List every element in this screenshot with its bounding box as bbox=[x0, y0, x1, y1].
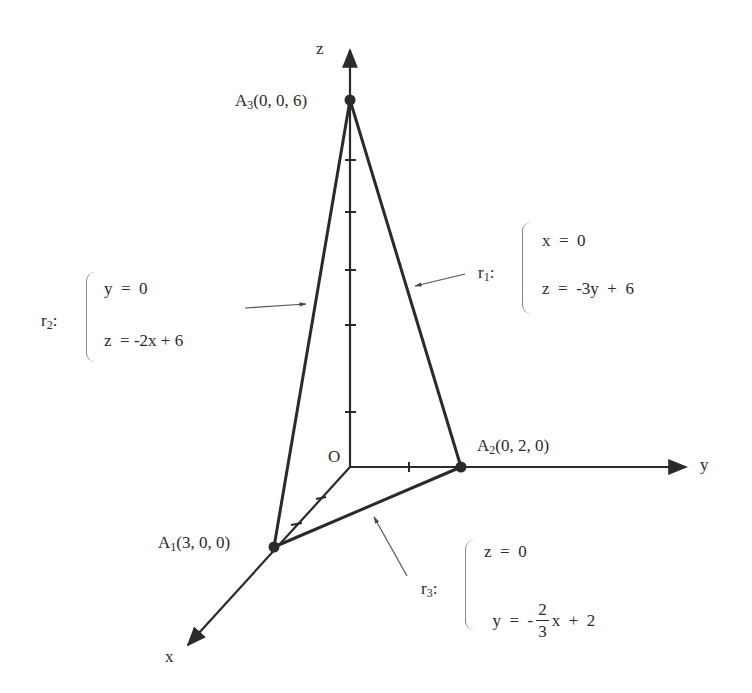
point-a2-coords: (0, 2, 0) bbox=[495, 436, 549, 455]
r2-colon: : bbox=[53, 311, 58, 330]
point-a2 bbox=[456, 462, 467, 473]
point-a3 bbox=[345, 95, 356, 106]
point-a1-coords: (3, 0, 0) bbox=[176, 533, 230, 552]
r1-eq1: x = 0 bbox=[542, 232, 586, 249]
r3-fraction-denominator: 3 bbox=[538, 621, 547, 640]
r3-eq2: y = -23x + 2 bbox=[484, 584, 595, 640]
r2-eq2: z = -2x + 6 bbox=[104, 332, 183, 349]
x-axis bbox=[188, 467, 350, 645]
r3-label: r3: bbox=[421, 580, 437, 599]
z-axis-label: z bbox=[316, 40, 324, 57]
r3-eq1: z = 0 bbox=[484, 543, 527, 560]
r1-label: r1: bbox=[478, 264, 494, 283]
r1-eq2: z = -3y + 6 bbox=[542, 280, 634, 297]
point-a1-label: A1(3, 0, 0) bbox=[158, 534, 230, 553]
r3-brace bbox=[465, 540, 474, 630]
point-a2-name: A bbox=[477, 436, 489, 455]
point-a3-label: A3(0, 0, 6) bbox=[235, 92, 307, 111]
r3-pointer-arrow bbox=[374, 517, 407, 576]
y-axis-label: y bbox=[700, 456, 709, 473]
point-a3-coords: (0, 0, 6) bbox=[253, 91, 307, 110]
line-r3 bbox=[274, 467, 461, 547]
r2-pointer-arrow bbox=[245, 304, 306, 308]
r3-eq2-lhs: y = - bbox=[493, 611, 534, 630]
r2-label: r2: bbox=[41, 312, 57, 331]
r3-fraction: 23 bbox=[536, 601, 549, 640]
point-a1 bbox=[269, 542, 280, 553]
r3-colon: : bbox=[433, 579, 438, 598]
r2-brace bbox=[86, 272, 95, 362]
origin-label: O bbox=[328, 448, 340, 465]
r3-eq2-rhs: x + 2 bbox=[552, 611, 596, 630]
r2-eq1: y = 0 bbox=[104, 280, 148, 297]
r1-brace bbox=[522, 222, 531, 314]
point-a3-name: A bbox=[235, 91, 247, 110]
x-axis-label: x bbox=[165, 648, 174, 665]
r1-colon: : bbox=[490, 263, 495, 282]
r3-fraction-numerator: 2 bbox=[536, 601, 549, 621]
point-a1-name: A bbox=[158, 533, 170, 552]
line-r1 bbox=[350, 100, 461, 467]
point-a2-label: A2(0, 2, 0) bbox=[477, 437, 549, 456]
r1-pointer-arrow bbox=[415, 274, 465, 286]
